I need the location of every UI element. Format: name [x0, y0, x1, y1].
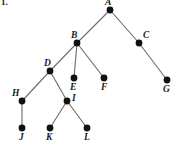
tree-edge-a-c [110, 10, 139, 43]
tree-node-l[interactable] [84, 125, 91, 132]
tree-edge-b-d [50, 43, 77, 71]
tree-edges-group [22, 10, 167, 128]
tree-node-f[interactable] [101, 75, 108, 82]
tree-node-a[interactable] [107, 7, 114, 14]
tree-node-label-a: A [105, 0, 111, 8]
tree-node-label-f: F [101, 83, 107, 93]
tree-node-label-b: B [71, 31, 77, 41]
tree-node-label-k: K [46, 133, 52, 142]
tree-node-k[interactable] [47, 125, 54, 132]
tree-node-label-d: D [44, 59, 51, 69]
tree-graph-canvas [0, 0, 173, 142]
tree-node-label-h: H [12, 89, 19, 99]
tree-node-b[interactable] [74, 40, 81, 47]
tree-node-label-g: G [163, 85, 170, 95]
tree-diagram-figure: 1. ABCDEFGHIJKL [0, 0, 173, 142]
tree-node-j[interactable] [19, 125, 26, 132]
tree-node-label-e: E [70, 83, 76, 93]
tree-edge-b-e [74, 43, 77, 78]
tree-edge-d-h [22, 71, 50, 101]
tree-edge-c-g [139, 43, 167, 80]
tree-edge-i-l [67, 101, 87, 128]
tree-node-d[interactable] [47, 68, 54, 75]
tree-node-label-l: L [84, 133, 90, 142]
tree-edge-d-i [50, 71, 67, 101]
tree-node-label-j: J [19, 133, 24, 142]
tree-edge-i-k [50, 101, 67, 128]
tree-node-h[interactable] [19, 98, 26, 105]
tree-node-c[interactable] [136, 40, 143, 47]
tree-node-i[interactable] [64, 98, 71, 105]
tree-node-label-i: I [72, 94, 76, 104]
tree-edge-a-b [77, 10, 110, 43]
tree-node-label-c: C [143, 31, 149, 41]
tree-node-g[interactable] [164, 77, 171, 84]
tree-node-e[interactable] [71, 75, 78, 82]
tree-edge-b-f [77, 43, 104, 78]
